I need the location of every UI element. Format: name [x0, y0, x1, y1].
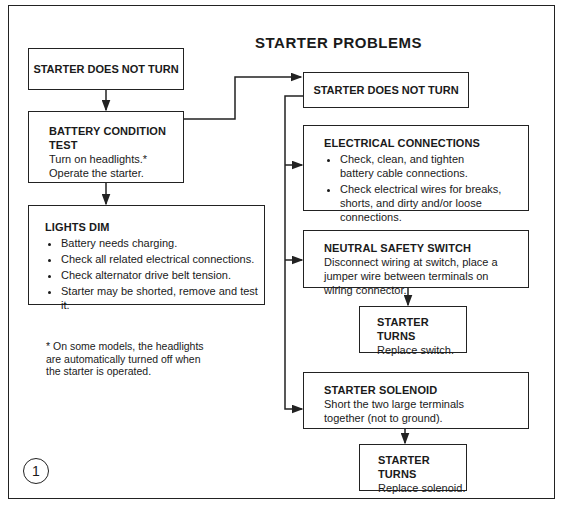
list-item: Check electrical wires for breaks, short… — [340, 182, 520, 224]
box-starter-turns-solenoid: STARTER TURNS Replace solenoid. — [359, 444, 467, 491]
list-item: Starter may be shorted, remove and test … — [61, 284, 264, 312]
box-text: Replace switch. — [377, 343, 466, 357]
box-battery-condition-test: BATTERY CONDITION TEST Turn on headlight… — [28, 111, 184, 183]
box-text: Disconnect wiring at switch, place a jum… — [324, 255, 520, 297]
box-starter-does-not-turn: STARTER DOES NOT TURN — [28, 48, 184, 90]
list-item: Check alternator drive belt tension. — [61, 268, 264, 282]
box-heading: STARTER DOES NOT TURN — [313, 83, 458, 97]
box-electrical-connections: ELECTRICAL CONNECTIONS Check, clean, and… — [303, 125, 529, 211]
box-starter-solenoid: STARTER SOLENOID Short the two large ter… — [303, 372, 529, 429]
box-heading: BATTERY CONDITION TEST — [49, 124, 183, 152]
box-heading: STARTER TURNS — [377, 315, 466, 343]
box-starter-turns-switch: STARTER TURNS Replace switch. — [359, 306, 467, 353]
footnote: * On some models, the headlights are aut… — [46, 340, 216, 378]
figure-number-badge: 1 — [23, 458, 49, 484]
box-line: Operate the starter. — [49, 166, 183, 180]
box-heading: LIGHTS DIM — [45, 220, 264, 234]
box-starter-does-not-turn-2: STARTER DOES NOT TURN — [303, 72, 469, 108]
box-heading: NEUTRAL SAFETY SWITCH — [324, 241, 528, 255]
list-item: Check, clean, and tighten battery cable … — [340, 152, 490, 180]
diagram-title: STARTER PROBLEMS — [255, 34, 422, 51]
box-neutral-safety-switch: NEUTRAL SAFETY SWITCH Disconnect wiring … — [303, 230, 529, 288]
box-line: Turn on headlights.* — [49, 152, 183, 166]
box-text: Short the two large terminals together (… — [324, 397, 494, 425]
box-heading: STARTER SOLENOID — [324, 383, 528, 397]
list-item: Battery needs charging. — [61, 236, 264, 250]
box-text: Replace solenoid. — [378, 481, 466, 495]
box-lights-dim: LIGHTS DIM Battery needs charging. Check… — [28, 205, 265, 305]
box-heading: STARTER TURNS — [378, 453, 466, 481]
list-item: Check all related electrical connections… — [61, 252, 264, 266]
box-heading: STARTER DOES NOT TURN — [33, 62, 178, 76]
box-heading: ELECTRICAL CONNECTIONS — [324, 136, 528, 150]
